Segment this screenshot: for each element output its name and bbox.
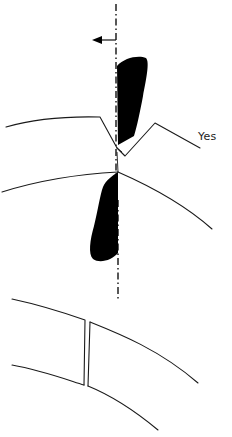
diagram-canvas <box>0 0 232 437</box>
bottom-band <box>12 299 198 430</box>
arrow-left-icon <box>92 36 116 44</box>
lower-blade-shape <box>90 172 118 261</box>
upper-blade-shape <box>117 57 148 145</box>
yes-label: Yes <box>198 130 216 143</box>
upper-band <box>6 117 200 156</box>
